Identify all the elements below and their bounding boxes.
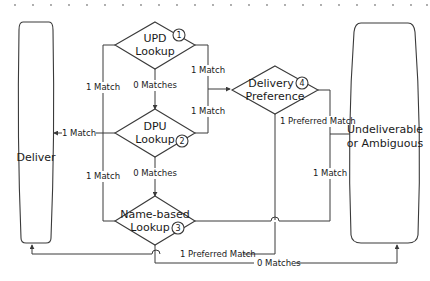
step-1-number: 1 xyxy=(176,31,181,40)
upd-label-line2: Lookup xyxy=(135,45,174,58)
deliver-terminal xyxy=(18,22,53,243)
dpu-label-line2: Lookup xyxy=(135,133,174,146)
name-based-label-line2: Lookup xyxy=(130,221,169,234)
name-based-label-line1: Name-based xyxy=(120,208,190,221)
undeliverable-label-line2: or Ambiguous xyxy=(347,137,424,150)
delivery-pref-label-line2: Preference xyxy=(246,90,305,103)
step-2-number: 2 xyxy=(179,137,184,146)
edge-label-upd-deliver: 1 Match xyxy=(86,82,120,92)
edge-label-pref-undeliverable: 1 Preferred Match xyxy=(280,116,356,126)
step-4-number: 4 xyxy=(299,79,304,88)
edge-label-dpu-name: 0 Matches xyxy=(133,168,177,178)
edge-label-upd-dpu: 0 Matches xyxy=(133,80,177,90)
deliver-label: Deliver xyxy=(16,151,56,164)
edge-label-zero-matches-bottom: 0 Matches xyxy=(257,258,301,268)
edge-label-preferred-match-bottom: 1 Preferred Match xyxy=(180,249,256,259)
delivery-flowchart: Deliver Undeliverable or Ambiguous UPD L… xyxy=(0,0,430,281)
edge-label-dpu-pref: 1 Match xyxy=(191,106,225,116)
upd-label-line1: UPD xyxy=(143,32,166,45)
connectors xyxy=(32,45,397,263)
delivery-pref-label-line1: Delivery xyxy=(248,77,294,90)
edge-label-name-deliver-left: 1 Match xyxy=(86,171,120,181)
dotted-border xyxy=(14,4,428,6)
undeliverable-label-line1: Undeliverable xyxy=(347,123,423,136)
edge-label-upd-pref: 1 Match xyxy=(191,65,225,75)
dpu-label-line1: DPU xyxy=(143,120,166,133)
step-3-number: 3 xyxy=(175,224,180,233)
edge-label-name-undeliverable-right: 1 Match xyxy=(313,168,347,178)
edge-label-dpu-deliver: 1 Match xyxy=(62,128,96,138)
